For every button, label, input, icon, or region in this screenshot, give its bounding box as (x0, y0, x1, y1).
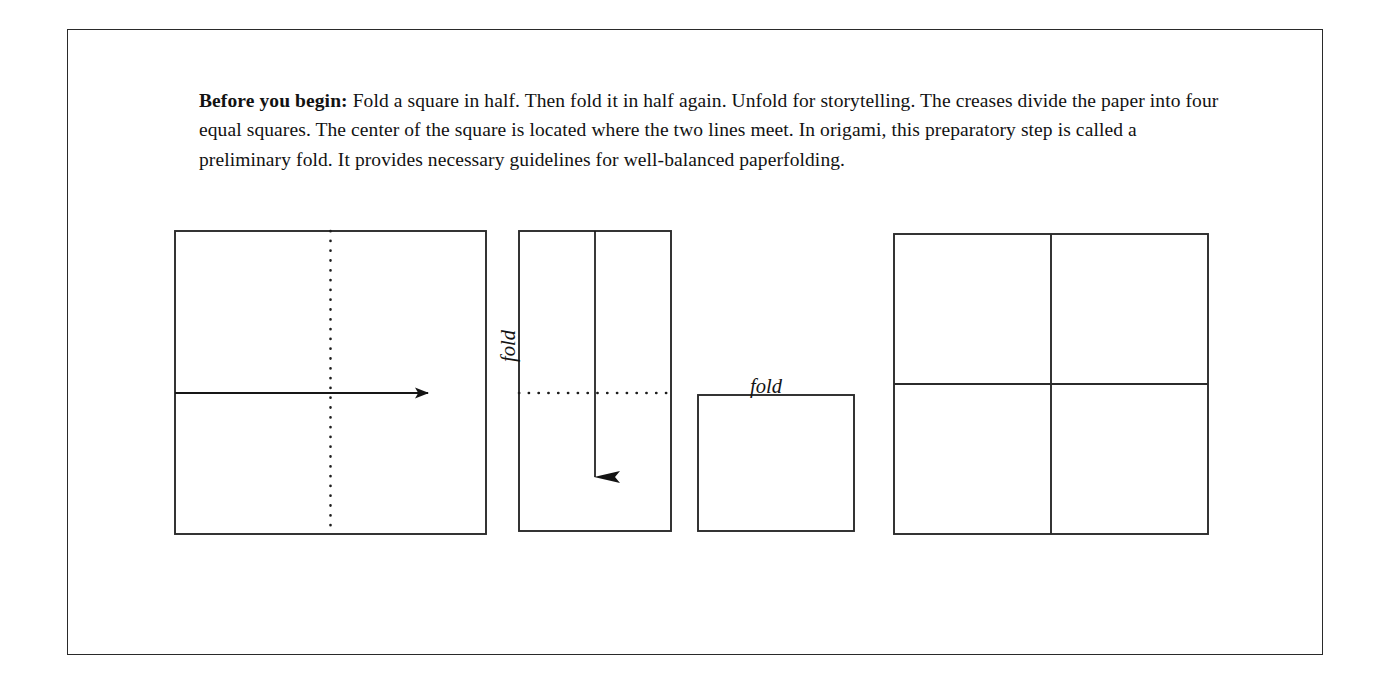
step-1-square-outline (175, 231, 486, 534)
page-border-frame: Before you begin: Fold a square in half.… (67, 29, 1323, 655)
diagram-step-4-unfolded-four-squares (894, 234, 1208, 534)
step-4-square-outline (894, 234, 1208, 534)
diagram-step-3-quarter-square (698, 395, 854, 531)
diagram-step-2-half-rectangle (519, 231, 671, 531)
diagram-step-1-full-square (175, 231, 486, 534)
intro-paragraph: Before you begin: Fold a square in half.… (199, 86, 1229, 175)
intro-lead-label: Before you begin: (199, 90, 348, 111)
intro-body-text: Fold a square in half. Then fold it in h… (199, 90, 1218, 170)
step-2-rectangle-outline (519, 231, 671, 531)
fold-label-horizontal: fold (750, 375, 782, 398)
step-3-square-outline (698, 395, 854, 531)
fold-label-vertical: fold (497, 330, 520, 362)
